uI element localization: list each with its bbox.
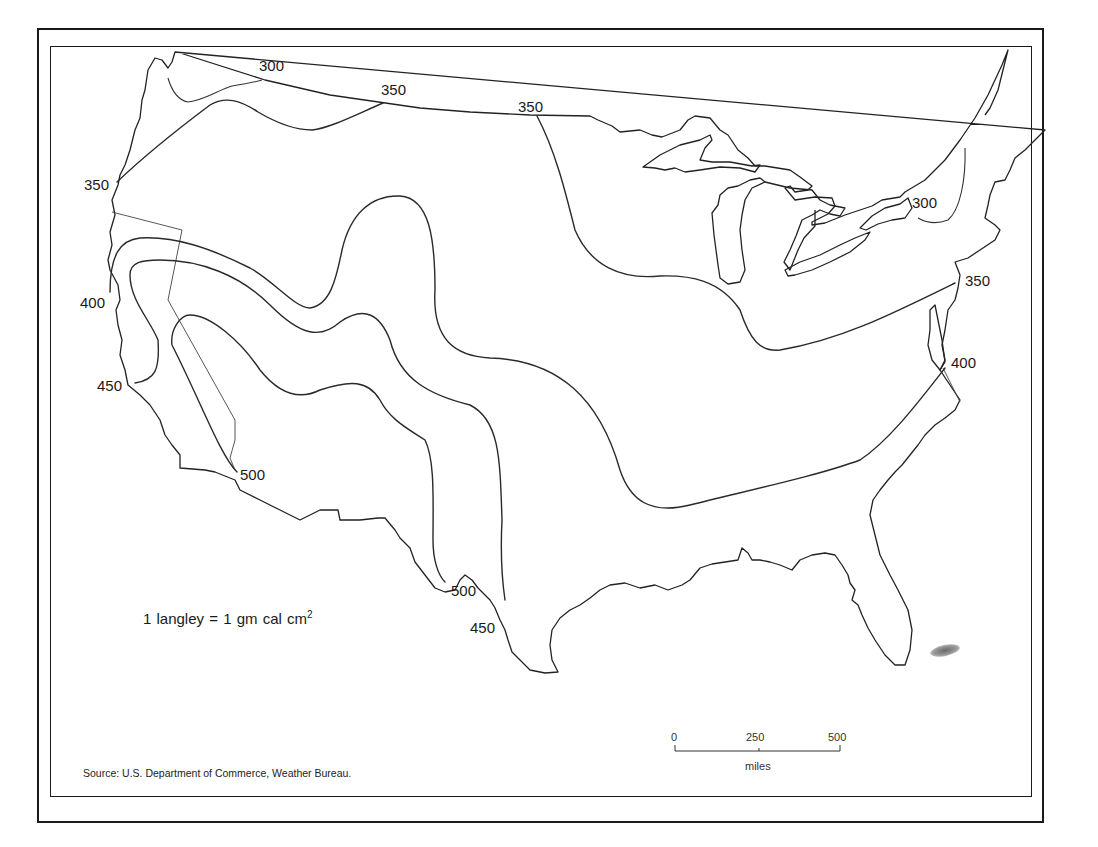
contour-300-northeast [918,148,965,223]
contour-label: 350 [965,273,990,288]
contour-400 [110,196,945,508]
scale-tick-0: 0 [671,732,677,743]
contour-300-northwest [168,78,262,102]
contour-label: 500 [451,583,476,598]
us-map [0,0,1098,847]
scale-tick-500: 500 [828,732,846,743]
units-note: 1 langley = 1 gm cal cm2 [143,609,313,627]
lake-ontario [860,198,912,230]
scale-unit: miles [745,761,771,772]
source-note: Source: U.S. Department of Commerce, Wea… [83,767,351,779]
contour-350-north [117,100,383,182]
scale-tick-250: 250 [746,732,764,743]
contour-450 [130,260,505,600]
contour-label: 500 [240,467,265,482]
units-eq: = [209,610,218,627]
state-border-ca [112,212,235,470]
us-outline [108,50,1045,673]
contour-label: 400 [951,355,976,370]
contour-label: 400 [80,295,105,310]
units-superscript: 2 [307,609,313,620]
map-page: 300 350 350 350 300 350 400 400 450 500 … [0,0,1098,847]
contour-350-central [537,116,955,350]
contour-label: 300 [259,58,284,73]
units-lhs: 1 langley [143,610,204,627]
lake-michigan [712,178,765,284]
contour-label: 450 [470,620,495,635]
contour-label: 350 [84,177,109,192]
state-border-nc [943,368,960,402]
lake-erie [785,232,870,276]
contour-label: 450 [97,378,122,393]
contour-label: 350 [518,99,543,114]
chesapeake-bay [928,305,945,370]
lake-huron [765,182,845,270]
contour-label: 350 [381,82,406,97]
units-rhs: 1 gm cal cm [223,610,307,627]
contour-label: 300 [912,195,937,210]
